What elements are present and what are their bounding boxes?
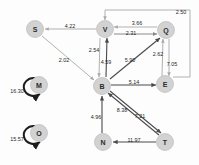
node-label-O: O (36, 130, 42, 137)
edge-weight-self-loop-O: 15.57 (10, 136, 24, 142)
node-label-M: M (36, 82, 42, 89)
edge-weight-B-E: 5.14 (129, 79, 140, 85)
node-label-V: V (103, 26, 108, 33)
edge-weight-E-V: 2.50 (176, 9, 187, 15)
edge-weight-T-B: 8.38 (117, 107, 128, 113)
edge-weight-Q-V: 3.66 (132, 20, 143, 26)
edge-weight-E-Q: 2.62 (153, 51, 164, 57)
node-V[interactable]: V (97, 21, 114, 38)
node-O[interactable]: O (31, 125, 48, 142)
edge-weight-S-B: 2.02 (59, 57, 70, 63)
node-label-E: E (163, 81, 168, 88)
node-B[interactable]: B (94, 78, 111, 95)
edge-weight-B-T: 7.21 (135, 113, 146, 119)
edge-weight-V-B: 2.54 (89, 47, 100, 53)
edge-B-V[interactable] (106, 38, 107, 77)
edge-V-B[interactable] (99, 38, 100, 77)
node-label-N: N (100, 139, 105, 146)
edge-weight-V-S: 4.22 (65, 23, 76, 29)
node-label-T: T (163, 139, 168, 146)
edge-E-Q[interactable] (162, 39, 163, 76)
edge-weight-B-Q: 5.90 (125, 57, 136, 63)
edge-weight-T-N: 11.97 (127, 137, 140, 143)
node-N[interactable]: N (95, 134, 112, 151)
edge-T-B[interactable] (108, 93, 159, 135)
edge-weight-Q-E: 7.05 (167, 61, 178, 67)
edge-E-V[interactable] (105, 10, 190, 77)
node-label-Q: Q (163, 27, 169, 35)
edge-weight-B-V: 4.59 (101, 59, 112, 65)
edge-weight-N-B: 4.96 (91, 114, 102, 120)
node-M[interactable]: M (31, 77, 48, 94)
graph-diagram-canvas: S V Q B E N T (0, 0, 199, 165)
node-S[interactable]: S (27, 21, 44, 38)
edge-weight-V-Q: 2.31 (126, 30, 137, 36)
node-label-B: B (99, 83, 104, 90)
graph-svg: S V Q B E N T (0, 0, 199, 165)
node-T[interactable]: T (157, 134, 174, 151)
node-Q[interactable]: Q (158, 22, 175, 39)
node-label-S: S (33, 26, 38, 33)
edge-weight-self-loop-M: 16.30 (10, 88, 24, 94)
node-E[interactable]: E (157, 76, 174, 93)
